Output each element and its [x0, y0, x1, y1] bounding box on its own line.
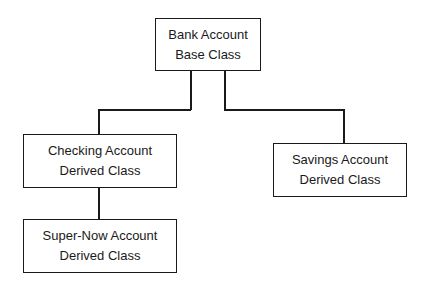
node-label-line1: Savings Account: [292, 150, 388, 170]
connector-checking-supernow: [98, 187, 100, 220]
connector-bank-savings-v2: [343, 109, 345, 143]
node-label-line2: Derived Class: [60, 246, 141, 266]
connector-bank-checking-v2: [98, 109, 100, 135]
node-label-line1: Checking Account: [48, 141, 152, 161]
connector-bank-savings-v1: [224, 70, 226, 110]
node-label-line1: Bank Account: [168, 25, 248, 45]
connector-bank-checking-h: [98, 109, 191, 111]
node-label-line2: Derived Class: [300, 170, 381, 190]
node-super-now-account: Super-Now Account Derived Class: [23, 219, 177, 273]
node-label-line2: Derived Class: [60, 161, 141, 181]
connector-bank-savings-h: [224, 109, 344, 111]
node-savings-account: Savings Account Derived Class: [273, 143, 407, 197]
node-bank-account: Bank Account Base Class: [155, 18, 261, 71]
node-label-line2: Base Class: [175, 45, 241, 65]
node-checking-account: Checking Account Derived Class: [23, 134, 177, 188]
node-label-line1: Super-Now Account: [43, 226, 158, 246]
connector-bank-checking-v1: [190, 70, 192, 110]
